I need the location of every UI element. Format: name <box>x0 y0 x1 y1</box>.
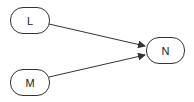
node-m[interactable]: M <box>10 69 50 96</box>
node-m-label: M <box>25 77 34 89</box>
node-l[interactable]: L <box>10 7 50 34</box>
node-n-label: N <box>162 45 170 57</box>
edge-m-to-n <box>49 55 145 77</box>
edge-l-to-n <box>49 24 145 46</box>
node-n[interactable]: N <box>146 37 185 64</box>
node-l-label: L <box>27 15 33 27</box>
